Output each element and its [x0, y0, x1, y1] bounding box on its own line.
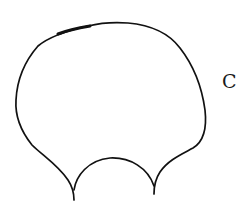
panel-label: C [222, 72, 237, 91]
outline-figure [0, 0, 251, 209]
thick-stroke-accent [58, 26, 90, 34]
bottom-arch [74, 158, 154, 190]
shape-outline [16, 23, 206, 200]
outline-drawing [0, 0, 251, 209]
